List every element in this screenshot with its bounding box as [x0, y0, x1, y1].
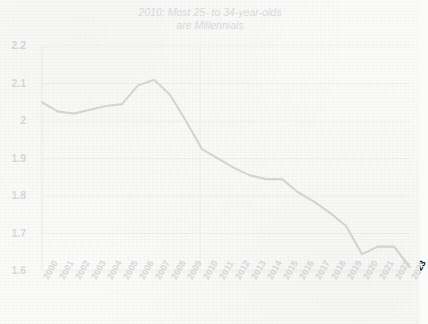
y-axis-tick-label: 2.2 [0, 39, 26, 51]
data-series-line [42, 80, 410, 268]
y-axis-tick-label: 1.9 [0, 152, 26, 164]
y-axis-tick-label: 2.1 [0, 77, 26, 89]
y-axis-tick-label: 1.7 [0, 227, 26, 239]
y-axis-tick-label: 1.8 [0, 189, 26, 201]
y-axis-tick-label: 1.6 [0, 264, 26, 276]
y-axis-tick-label: 2 [0, 114, 26, 126]
gridlines [42, 46, 410, 271]
